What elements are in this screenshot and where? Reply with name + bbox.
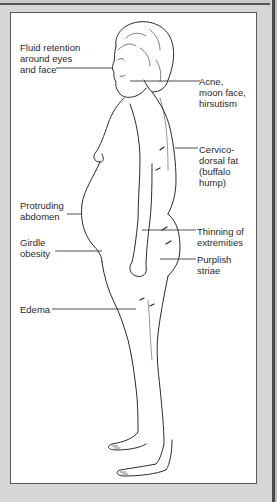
front-leg-outline <box>102 262 146 450</box>
face-outline <box>113 46 147 97</box>
back-leg-outline <box>117 276 172 476</box>
chest-outline <box>94 98 124 162</box>
label-buffalo-hump: Cervico- dorsal fat (buffalo hump) <box>199 144 238 188</box>
abdomen-outline <box>81 162 102 262</box>
label-girdle-obesity: Girdle obesity <box>20 237 50 259</box>
label-fluid-retention: Fluid retention around eyes and face <box>20 42 80 75</box>
label-protruding-abdomen: Protruding abdomen <box>20 200 64 222</box>
label-purplish-striae: Purplish striae <box>197 254 231 276</box>
back-outline <box>152 92 176 214</box>
label-edema: Edema <box>20 304 50 315</box>
hip-outline <box>168 214 180 276</box>
label-acne-moon-face: Acne, moon face, hirsutism <box>199 76 246 109</box>
hair-outline <box>116 22 174 92</box>
arm-outline <box>130 104 152 277</box>
label-thinning-extremities: Thinning of extremities <box>197 226 244 248</box>
